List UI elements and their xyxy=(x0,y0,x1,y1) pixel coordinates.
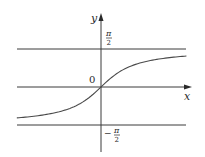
lower-label-numerator: π xyxy=(113,126,120,135)
y-axis-label: y xyxy=(90,12,98,25)
upper-label-denominator: 2 xyxy=(107,39,111,47)
x-axis-arrow-icon xyxy=(184,85,192,90)
arctan-graph: y x 0 π 2 − π 2 xyxy=(0,0,205,157)
lower-label-sign: − xyxy=(104,128,112,138)
y-axis-arrow-icon xyxy=(99,13,104,21)
origin-label: 0 xyxy=(89,74,95,85)
upper-asymptote-label: π 2 xyxy=(105,29,112,47)
lower-label-denominator: 2 xyxy=(115,136,119,144)
x-axis-label: x xyxy=(184,90,191,103)
graph-svg: y x 0 π 2 − π 2 xyxy=(0,0,205,157)
upper-label-numerator: π xyxy=(105,29,112,38)
lower-asymptote-label: − π 2 xyxy=(104,126,120,144)
